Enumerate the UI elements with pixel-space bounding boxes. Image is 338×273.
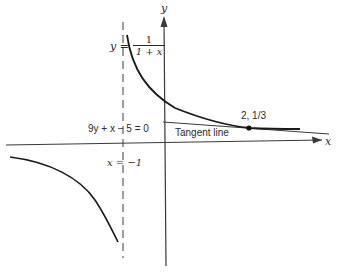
x-axis — [6, 137, 322, 146]
curve-equation-lhs: y = — [110, 40, 129, 53]
graph-canvas — [0, 0, 338, 273]
tangent-point-label: 2, 1/3 — [241, 110, 266, 121]
x-axis-arrow-icon — [312, 137, 322, 144]
curve-equation-fraction: 1 1 + x — [132, 34, 166, 58]
tangent-point — [246, 125, 251, 130]
y-axis-arrow-icon — [161, 16, 168, 27]
x-axis-label: x — [325, 135, 331, 148]
asymptote-label: x = −1 — [107, 157, 142, 168]
tangent-line-label: Tangent line — [175, 127, 229, 138]
curve-left-branch — [10, 157, 118, 242]
fraction-denominator: 1 + x — [132, 46, 166, 58]
tangent-equation-label: 9y + x − 5 = 0 — [88, 123, 149, 134]
y-axis-label: y — [161, 2, 167, 15]
fraction-numerator: 1 — [132, 34, 166, 45]
